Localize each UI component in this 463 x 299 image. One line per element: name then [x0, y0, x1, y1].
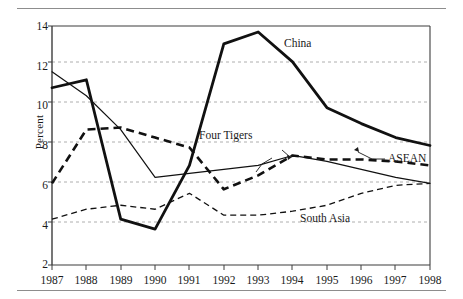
figure: Percent 14 12 10 8 6 4 2 1987 1988 1989 …: [0, 0, 463, 299]
annotation-south-asia: South Asia: [300, 213, 350, 225]
annotation-four-tigers: Four Tigers: [199, 130, 252, 142]
series-line-south-asia: [52, 183, 430, 219]
annotation-china: China: [284, 38, 311, 50]
grid-lines: [52, 62, 430, 222]
chart-plot-area: Percent 14 12 10 8 6 4 2 1987 1988 1989 …: [0, 0, 463, 299]
annotation-asean: ASEAN: [388, 153, 426, 165]
chart-svg: [0, 0, 463, 299]
x-axis-ticks: [52, 265, 430, 270]
